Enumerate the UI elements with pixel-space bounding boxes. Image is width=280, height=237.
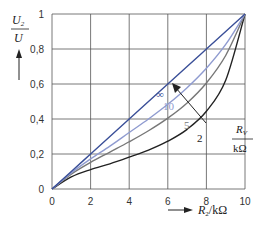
y-tick-labels: 00,20,40,60,81 [30, 9, 44, 195]
curve-rv-∞ [52, 14, 245, 189]
curve-label-infinity: ∞ [156, 88, 164, 100]
svg-text:R2/kΩ: R2/kΩ [197, 203, 227, 218]
voltage-divider-chart: 0246810 00,20,40,60,81 ∞ 10 5 2 RV kΩ U2… [0, 0, 280, 237]
x-tick-label: 10 [239, 196, 251, 207]
curve-label-10: 10 [163, 100, 175, 112]
y-tick-label: 0,6 [30, 79, 44, 90]
x-axis-label: R2/kΩ [168, 203, 227, 218]
y-tick-label: 0,8 [30, 44, 44, 55]
y-axis-label: U2 U [11, 13, 29, 80]
y-tick-label: 0 [38, 184, 44, 195]
x-tick-label: 2 [88, 196, 94, 207]
svg-text:RV: RV [235, 123, 248, 137]
curve-label-2: 2 [197, 132, 203, 144]
curves [52, 14, 245, 189]
svg-text:kΩ: kΩ [233, 142, 247, 154]
rv-unit-label: RV kΩ [232, 123, 253, 154]
y-tick-label: 0,2 [30, 149, 44, 160]
y-tick-label: 1 [38, 9, 44, 20]
y-tick-label: 0,4 [30, 114, 44, 125]
curve-label-5: 5 [184, 119, 190, 131]
x-tick-label: 0 [49, 196, 55, 207]
x-tick-label: 6 [165, 196, 171, 207]
svg-text:U: U [14, 31, 24, 45]
svg-text:U2: U2 [12, 13, 25, 28]
x-tick-label: 4 [126, 196, 132, 207]
